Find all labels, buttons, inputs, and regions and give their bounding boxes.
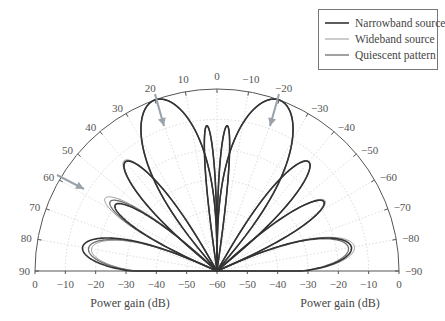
lobe-path <box>217 200 324 271</box>
legend-item-narrowband: Narrowband source <box>319 15 445 31</box>
angle-label: −30 <box>311 102 329 114</box>
radial-label: −30 <box>117 278 135 290</box>
lobe-path <box>217 200 324 271</box>
angle-tick <box>100 132 103 135</box>
lobe-path <box>217 126 230 271</box>
angle-label: −50 <box>361 144 379 156</box>
angle-tick <box>185 92 186 96</box>
legend-label: Wideband source <box>355 33 435 45</box>
angle-label: 40 <box>85 121 97 133</box>
angle-label: −10 <box>242 73 260 85</box>
radial-label: −40 <box>269 278 287 290</box>
angle-label: −70 <box>394 201 412 213</box>
lobe-path <box>217 126 230 271</box>
radial-label: −50 <box>178 278 196 290</box>
radial-label: −10 <box>360 278 378 290</box>
legend-swatch <box>325 21 349 25</box>
angle-tick <box>306 113 308 116</box>
angle-tick <box>392 239 396 240</box>
lobe-path <box>115 204 217 271</box>
angle-tick <box>46 209 50 210</box>
angle-tick <box>353 154 356 157</box>
angle-label: −90 <box>405 265 423 277</box>
radial-label: −50 <box>239 278 257 290</box>
angle-label: −20 <box>275 82 293 94</box>
lobe-path <box>105 197 217 271</box>
radial-label: −10 <box>57 278 75 290</box>
legend-item-quiescent: Quiescent pattern <box>319 47 436 63</box>
legend-label: Quiescent pattern <box>355 49 436 61</box>
radial-axis-title-right: Power gain (dB) <box>300 296 379 310</box>
lobe-path <box>217 126 230 271</box>
angle-tick <box>371 180 374 182</box>
angle-tick <box>126 113 128 116</box>
lobe-path <box>110 200 217 271</box>
radial-label: −20 <box>330 278 348 290</box>
angle-tick <box>38 239 42 240</box>
grid-spoke <box>38 239 217 271</box>
angle-label: 10 <box>178 73 190 85</box>
legend-swatch <box>325 53 349 57</box>
angle-label: 60 <box>43 171 55 183</box>
angle-tick <box>384 209 388 210</box>
angle-label: 80 <box>21 232 33 244</box>
angle-label: 0 <box>214 70 220 82</box>
angle-label: 20 <box>145 82 157 94</box>
lobe-path <box>204 126 217 271</box>
radial-label: 0 <box>32 278 38 290</box>
lobe-path <box>204 126 217 271</box>
angle-label: 90 <box>19 265 31 277</box>
angle-tick <box>331 132 334 135</box>
angle-label: 30 <box>112 102 124 114</box>
legend-swatch <box>325 37 349 41</box>
angle-label: −80 <box>402 232 420 244</box>
legend-item-wideband: Wideband source <box>319 31 435 47</box>
angle-tick <box>248 92 249 96</box>
radial-label: −40 <box>148 278 166 290</box>
pattern-series <box>82 99 354 271</box>
radial-label: −60 <box>208 278 226 290</box>
lobe-path <box>204 126 217 271</box>
legend: Narrowband source Wideband source Quiesc… <box>318 9 438 70</box>
angle-label: −40 <box>338 121 356 133</box>
lobe-path <box>217 199 326 271</box>
radial-label: −30 <box>299 278 317 290</box>
angle-tick <box>78 154 81 157</box>
angle-label: −60 <box>380 171 398 183</box>
radial-label: 0 <box>396 278 402 290</box>
radial-axis-title-left: Power gain (dB) <box>90 296 169 310</box>
angle-label: 50 <box>62 144 74 156</box>
angle-label: 70 <box>29 201 41 213</box>
grid-spoke <box>217 239 396 271</box>
angle-tick <box>59 180 62 182</box>
radial-label: −20 <box>87 278 105 290</box>
legend-label: Narrowband source <box>355 17 445 29</box>
